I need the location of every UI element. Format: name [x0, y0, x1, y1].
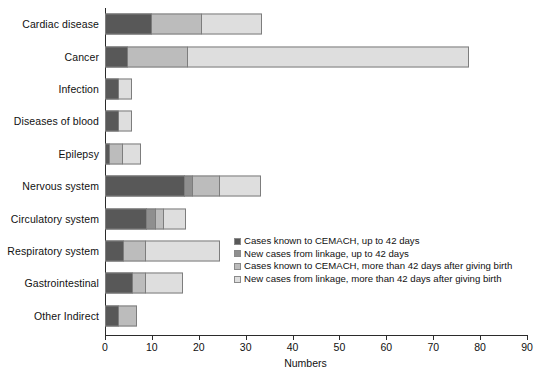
chart-row: Cardiac disease	[105, 8, 527, 40]
x-axis-title: Numbers	[0, 357, 551, 369]
category-label: Gastrointestinal	[24, 277, 99, 289]
bar-segment	[109, 143, 123, 164]
x-tick-label: 20	[193, 341, 205, 353]
bar-segment	[105, 240, 124, 261]
bar-segment	[122, 143, 141, 164]
bar-segment	[151, 14, 203, 35]
bar-segment	[145, 273, 183, 294]
bar-segment	[123, 240, 146, 261]
bar-segment	[192, 176, 220, 197]
x-tick	[527, 335, 528, 340]
x-tick	[199, 335, 200, 340]
category-label: Circulatory system	[11, 213, 99, 225]
bar-segment	[105, 176, 185, 197]
category-label: Diseases of blood	[14, 115, 99, 127]
category-label: Cancer	[65, 51, 99, 63]
bar-segment	[105, 208, 147, 229]
x-tick-label: 80	[474, 341, 486, 353]
legend-swatch	[234, 238, 241, 245]
category-label: Infection	[58, 83, 99, 95]
legend-swatch	[234, 276, 241, 283]
stacked-bar	[105, 78, 132, 99]
x-tick-label: 40	[287, 341, 299, 353]
x-tick-label: 60	[380, 341, 392, 353]
legend-item: New cases from linkage, more than 42 day…	[234, 273, 512, 286]
chart-row: Circulatory system	[105, 202, 527, 234]
legend-swatch	[234, 263, 241, 270]
x-tick	[293, 335, 294, 340]
bar-segment	[132, 273, 146, 294]
x-tick	[152, 335, 153, 340]
bar-segment	[187, 46, 468, 67]
chart-row: Diseases of blood	[105, 105, 527, 137]
x-tick-label: 10	[146, 341, 158, 353]
legend-label: Cases known to CEMACH, up to 42 days	[244, 235, 419, 248]
stacked-bar	[105, 14, 262, 35]
legend-item: New cases from linkage, up to 42 days	[234, 248, 512, 261]
x-axis-title-text: Numbers	[284, 357, 327, 369]
legend-label: Cases known to CEMACH, more than 42 days…	[244, 260, 512, 273]
legend-label: New cases from linkage, up to 42 days	[244, 248, 409, 261]
stacked-bar	[105, 305, 137, 326]
stacked-bar	[105, 143, 141, 164]
bar-segment	[105, 78, 119, 99]
stacked-bar	[105, 46, 469, 67]
legend-item: Cases known to CEMACH, up to 42 days	[234, 235, 512, 248]
stacked-bar	[105, 273, 183, 294]
x-tick-label: 70	[427, 341, 439, 353]
bar-segment	[105, 273, 133, 294]
x-tick	[339, 335, 340, 340]
chart-row: Cancer	[105, 40, 527, 72]
chart-row: Nervous system	[105, 170, 527, 202]
bar-segment	[118, 78, 132, 99]
x-tick	[105, 335, 106, 340]
x-axis-line	[105, 335, 528, 336]
chart-row: Infection	[105, 73, 527, 105]
bar-segment	[105, 111, 119, 132]
stacked-bar	[105, 176, 261, 197]
category-label: Respiratory system	[7, 245, 99, 257]
category-label: Cardiac disease	[22, 18, 99, 30]
x-tick-label: 0	[102, 341, 108, 353]
bar-segment	[105, 14, 152, 35]
x-tick	[433, 335, 434, 340]
x-tick	[386, 335, 387, 340]
category-label: Epilepsy	[59, 148, 100, 160]
bar-segment	[219, 176, 261, 197]
stacked-bar	[105, 240, 220, 261]
x-tick	[480, 335, 481, 340]
bar-segment	[118, 111, 132, 132]
x-tick-label: 30	[240, 341, 252, 353]
x-tick-label: 50	[334, 341, 346, 353]
bar-segment	[201, 14, 262, 35]
bar-segment	[163, 208, 186, 229]
chart-row: Other Indirect	[105, 300, 527, 332]
x-tick	[246, 335, 247, 340]
x-tick-label: 90	[521, 341, 533, 353]
legend-item: Cases known to CEMACH, more than 42 days…	[234, 260, 512, 273]
bar-segment	[145, 240, 220, 261]
chart-row: Epilepsy	[105, 138, 527, 170]
bar-segment	[105, 46, 128, 67]
bar-segment	[118, 305, 137, 326]
stacked-bar	[105, 111, 132, 132]
bar-segment	[105, 305, 119, 326]
bar-segment	[127, 46, 188, 67]
legend-swatch	[234, 250, 241, 257]
legend-label: New cases from linkage, more than 42 day…	[244, 273, 502, 286]
stacked-bar-chart: Cardiac diseaseCancerInfectionDiseases o…	[0, 0, 551, 377]
category-label: Other Indirect	[34, 310, 99, 322]
stacked-bar	[105, 208, 186, 229]
chart-legend: Cases known to CEMACH, up to 42 daysNew …	[234, 235, 512, 285]
category-label: Nervous system	[22, 180, 99, 192]
